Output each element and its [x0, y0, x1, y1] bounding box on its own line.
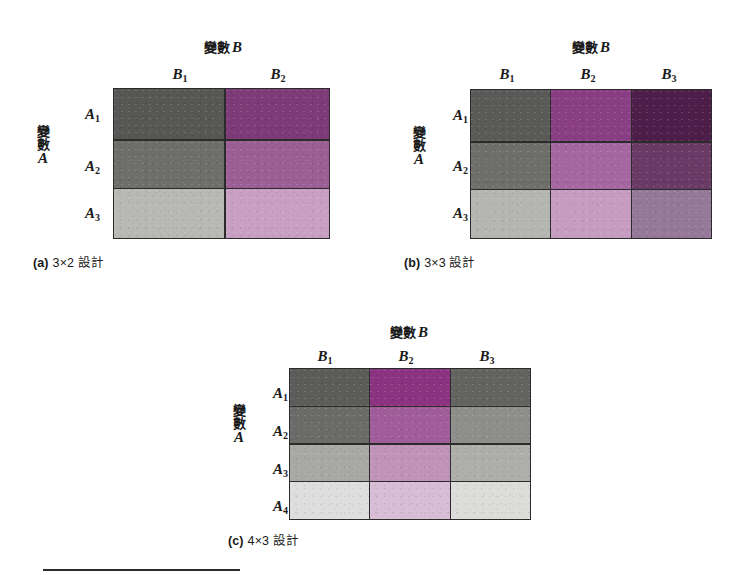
panel-c-column-variable-label: 變數B [334, 325, 484, 341]
panel-a-row-header-a1-sub: 1 [95, 113, 100, 124]
panel-a-col-header-b2-label: B [270, 66, 280, 82]
cell-a1-b3 [451, 369, 530, 406]
panel-b-row-header-a3-label: A [453, 205, 463, 221]
panel-c-caption-tag: (c) [228, 534, 244, 548]
panel-c-row-header-a1-label: A [273, 385, 283, 401]
cell-a2-b1 [290, 407, 369, 444]
panel-b-row-header-a2-label: A [453, 158, 463, 174]
panel-b-col-header-b3: B3 [646, 66, 692, 83]
panel-b-row-header-a3-sub: 3 [463, 212, 468, 223]
panel-c-row-header-a2-label: A [273, 423, 283, 439]
cell-a2-b3 [451, 407, 530, 444]
panel-b-col-header-b2-sub: 2 [591, 73, 596, 84]
cell-a2-b3 [632, 143, 711, 190]
panel-b-col-header-b2-label: B [580, 66, 590, 82]
cell-a3-b3 [632, 190, 711, 238]
panel-a-col-header-b1-sub: 1 [183, 73, 188, 84]
panel-a-col-header-b1-label: B [172, 66, 182, 82]
panel-c-grid [289, 368, 531, 520]
cell-a3-b2 [226, 189, 329, 238]
panel-c-col-header-b2-label: B [398, 348, 408, 364]
panel-a-caption: (a)3×2 設計 [33, 252, 104, 271]
cell-a4-b3 [451, 482, 530, 519]
cell-a3-b2 [370, 445, 449, 482]
cell-a3-b2 [551, 190, 630, 238]
cell-a3-b1 [114, 189, 224, 238]
panel-b-row-header-a3: A3 [430, 205, 468, 222]
panel-b-col-header-b1-label: B [499, 66, 509, 82]
panel-b-col-header-b3-sub: 3 [672, 73, 677, 84]
cell-a1-b2 [551, 90, 630, 141]
cell-a1-b1 [290, 369, 369, 406]
panel-c-col-header-b3: B3 [464, 348, 510, 365]
panel-c-col-header-b3-label: B [479, 348, 489, 364]
panel-c-col-header-b1: B1 [302, 348, 348, 365]
footnote-separator-rule [43, 569, 240, 571]
panel-a-row-variable-name: A [28, 151, 58, 166]
panel-b-caption: (b)3×3 設計 [404, 252, 476, 271]
cell-a2-b1 [114, 141, 224, 189]
panel-b-column-variable-label: 變數B [516, 40, 666, 56]
panel-b-row-header-a2: A2 [430, 158, 468, 175]
panel-c-col-header-b2-sub: 2 [409, 355, 414, 366]
panel-c-column-variable-text: 變數 [390, 325, 416, 340]
panel-c-row-header-a3: A3 [250, 461, 288, 478]
panel-c-row-header-a3-label: A [273, 461, 283, 477]
panel-a-row-header-a1: A1 [62, 106, 100, 123]
panel-c-column-variable-name: B [416, 324, 428, 340]
panel-c-row-header-a2: A2 [250, 423, 288, 440]
panel-b-row-header-a1-sub: 1 [463, 114, 468, 125]
panel-b-col-header-b1-sub: 1 [510, 73, 515, 84]
cell-a3-b3 [451, 445, 530, 482]
panel-c-col-header-b1-label: B [317, 348, 327, 364]
panel-c-row-header-a1: A1 [250, 385, 288, 402]
panel-b-grid [470, 89, 712, 239]
panel-a-row-header-a2-label: A [85, 158, 95, 174]
panel-a-column-variable-name: B [230, 39, 242, 55]
panel-a-row-header-a2: A2 [62, 158, 100, 175]
panel-c-row-header-a4-sub: 4 [283, 505, 288, 516]
panel-b-row-header-a2-sub: 2 [463, 165, 468, 176]
panel-c-col-header-b2: B2 [383, 348, 429, 365]
panel-b-caption-text: 3×3 設計 [420, 256, 475, 270]
panel-c-row-header-a1-sub: 1 [283, 392, 288, 403]
panel-a-row-header-a1-label: A [85, 106, 95, 122]
panel-c-row-header-a4: A4 [250, 498, 288, 515]
panel-a-column-variable-label: 變數B [148, 40, 298, 56]
cell-a1-b2 [226, 89, 329, 139]
cell-a3-b1 [471, 190, 550, 238]
panel-a-grid [113, 88, 330, 239]
cell-a4-b2 [370, 482, 449, 519]
panel-b-row-header-a1-label: A [453, 107, 463, 123]
panel-a-row-variable-label: 變 數 A [28, 125, 58, 166]
panel-c-caption-text: 4×3 設計 [244, 534, 299, 548]
panel-b-caption-tag: (b) [404, 256, 420, 270]
cell-a1-b1 [114, 89, 224, 139]
cell-a1-b1 [471, 90, 550, 141]
panel-a-col-header-b2: B2 [253, 66, 303, 83]
panel-c-col-header-b1-sub: 1 [328, 355, 333, 366]
cell-a1-b3 [632, 90, 711, 141]
panel-a-row-header-a3-sub: 3 [95, 212, 100, 223]
panel-c-row-header-a2-sub: 2 [283, 430, 288, 441]
panel-c-row-header-a4-label: A [273, 498, 283, 514]
cell-a2-b2 [370, 407, 449, 444]
panel-c-caption: (c)4×3 設計 [228, 530, 299, 549]
cell-a4-b1 [290, 482, 369, 519]
panel-a-row-header-a3-label: A [85, 205, 95, 221]
panel-a-row-header-a2-sub: 2 [95, 165, 100, 176]
panel-b-row-header-a1: A1 [430, 107, 468, 124]
panel-b-col-header-b2: B2 [565, 66, 611, 83]
panel-a-caption-tag: (a) [33, 256, 49, 270]
panel-a-caption-text: 3×2 設計 [49, 256, 104, 270]
cell-a2-b1 [471, 143, 550, 190]
panel-b-col-header-b3-label: B [661, 66, 671, 82]
cell-a1-b2 [370, 369, 449, 406]
cell-a2-b2 [226, 141, 329, 189]
cell-a3-b1 [290, 445, 369, 482]
panel-b-column-variable-text: 變數 [572, 40, 598, 55]
panel-a-col-header-b2-sub: 2 [281, 73, 286, 84]
panel-a-row-header-a3: A3 [62, 205, 100, 222]
cell-a2-b2 [551, 143, 630, 190]
panel-a-col-header-b1: B1 [155, 66, 205, 83]
